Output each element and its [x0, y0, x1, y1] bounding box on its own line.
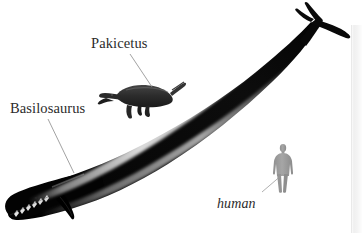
leader-line-pakicetus	[130, 54, 152, 87]
leader-line-basilosaurus	[48, 119, 74, 173]
figure-illustration	[0, 0, 362, 233]
basilosaurus-eye	[35, 197, 38, 199]
human-right-leg	[283, 174, 288, 193]
pakicetus-front-leg	[126, 105, 132, 119]
pakicetus-torso	[116, 85, 173, 107]
pakicetus-rear-leg	[137, 105, 142, 116]
whale-scale-figure: Pakicetus Basilosaurus human	[0, 0, 362, 233]
human-silhouette	[273, 144, 293, 193]
human-head	[280, 144, 286, 152]
pakicetus-jaw	[98, 98, 114, 104]
pakicetus-silhouette	[98, 82, 186, 119]
right-panel-edge	[351, 25, 362, 233]
label-basilosaurus: Basilosaurus	[10, 101, 85, 116]
pakicetus-eye	[111, 94, 113, 96]
label-pakicetus: Pakicetus	[91, 36, 147, 51]
human-torso	[273, 153, 293, 176]
label-human: human	[217, 197, 256, 211]
